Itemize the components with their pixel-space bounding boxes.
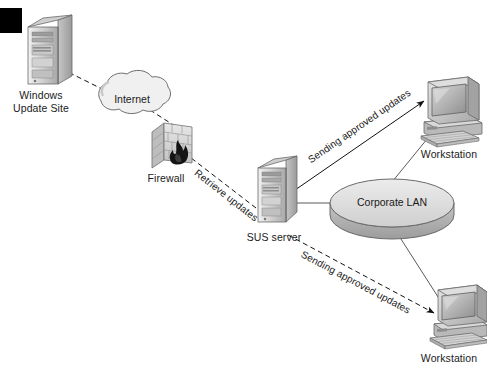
label-windows-update-site-line1: Windows bbox=[19, 89, 62, 101]
label-sus-server: SUS server bbox=[238, 231, 310, 244]
label-corporate-lan: Corporate LAN bbox=[338, 196, 446, 208]
brick-wall-flame-icon bbox=[152, 123, 192, 168]
label-firewall: Firewall bbox=[136, 172, 196, 185]
label-windows-update-site: Windows Update Site bbox=[0, 89, 82, 114]
label-workstation-bottom: Workstation bbox=[411, 352, 487, 365]
edge-sus-to-workstation-bottom bbox=[288, 235, 434, 313]
cloud-icon bbox=[99, 70, 171, 113]
desktop-computer-icon bbox=[430, 285, 487, 349]
label-workstation-top: Workstation bbox=[411, 148, 487, 161]
diagram-vector-layer bbox=[0, 0, 487, 371]
edge-sus-to-workstation-top bbox=[295, 101, 424, 190]
desktop-computer-icon bbox=[421, 77, 482, 147]
network-diagram-figure: Windows Update Site Internet Firewall SU… bbox=[0, 0, 487, 371]
server-tower-icon bbox=[258, 154, 297, 227]
label-windows-update-site-line2: Update Site bbox=[13, 102, 69, 114]
label-internet: Internet bbox=[104, 93, 160, 105]
lan-disc-icon bbox=[330, 179, 454, 239]
server-tower-icon bbox=[28, 12, 72, 86]
